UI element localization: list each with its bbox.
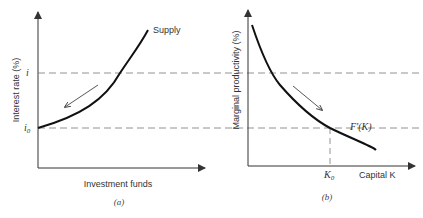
supply-curve bbox=[38, 30, 148, 128]
panel-b: F'(K) K0 Capital K Marginal productivity… bbox=[231, 10, 415, 202]
caption-a: (a) bbox=[114, 197, 125, 207]
tick-label-i0: i0 bbox=[24, 122, 31, 135]
direction-arrow-b bbox=[293, 86, 322, 110]
tick-label-i: i bbox=[26, 67, 29, 78]
x-axis-label-a: Investment funds bbox=[84, 179, 153, 189]
supply-label: Supply bbox=[153, 25, 181, 35]
tick-label-k0: K0 bbox=[323, 169, 335, 182]
y-axis-label-a: Interest rate (%) bbox=[11, 58, 21, 123]
caption-b: (b) bbox=[322, 192, 333, 202]
curve-label-fk: F'(K) bbox=[349, 121, 372, 133]
diagram: Supply i i0 Interest rate (%) Investment… bbox=[0, 0, 423, 218]
y-axis-label-b: Marginal productivity (%) bbox=[231, 30, 241, 129]
x-axis-label-b: Capital K bbox=[359, 170, 396, 180]
